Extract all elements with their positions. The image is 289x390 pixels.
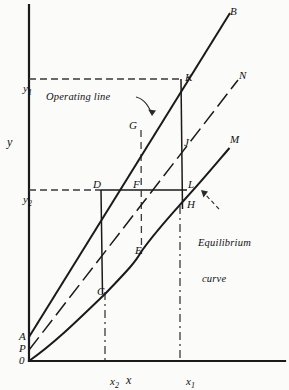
operating-line-arrowhead — [148, 110, 156, 117]
point-label-H: H — [187, 199, 195, 210]
point-label-E: E — [135, 245, 142, 256]
point-label-B: B — [230, 6, 237, 17]
point-label-F: F — [133, 179, 140, 190]
origin-label: 0 — [19, 355, 25, 366]
point-label-K: K — [185, 72, 192, 83]
point-label-J: J — [184, 137, 189, 148]
y-tick-sub-y2: 2 — [28, 199, 32, 208]
y-tick-label-y2: y2 — [12, 183, 32, 220]
x-tick-label-x1: x1 — [175, 365, 195, 390]
equilibrium-curve-annotation: Equilibrium curve — [198, 213, 251, 309]
y-tick-label-y1: y1 — [12, 72, 32, 109]
x-tick-label-x2: x2 — [99, 365, 119, 390]
point-label-N: N — [239, 70, 246, 81]
segment-DC — [101, 190, 103, 294]
x-tick-sub-x2: 2 — [115, 381, 119, 390]
x-tick-sub-x1: 1 — [191, 381, 195, 390]
point-label-A: A — [19, 331, 26, 342]
point-label-P: P — [19, 343, 26, 354]
equilibrium-curve-annotation-line2: curve — [198, 273, 251, 285]
operating-line-annotation: Operating line — [46, 91, 110, 103]
point-label-M: M — [230, 134, 239, 145]
point-label-D: D — [93, 179, 101, 190]
point-label-G: G — [129, 120, 137, 131]
chemical-engineering-diagram: A P 0 B N M K G J D F L H E C y x y1 y2 … — [0, 0, 289, 390]
y-tick-sub-y1: 1 — [28, 88, 32, 97]
x-axis-label: x — [126, 375, 131, 386]
point-label-L: L — [188, 179, 194, 190]
equilibrium-curve-annotation-line1: Equilibrium — [198, 237, 251, 249]
segment-GE — [141, 130, 142, 254]
diagram-canvas — [0, 0, 289, 390]
point-label-C: C — [97, 286, 104, 297]
y-axis-label: y — [7, 137, 12, 148]
